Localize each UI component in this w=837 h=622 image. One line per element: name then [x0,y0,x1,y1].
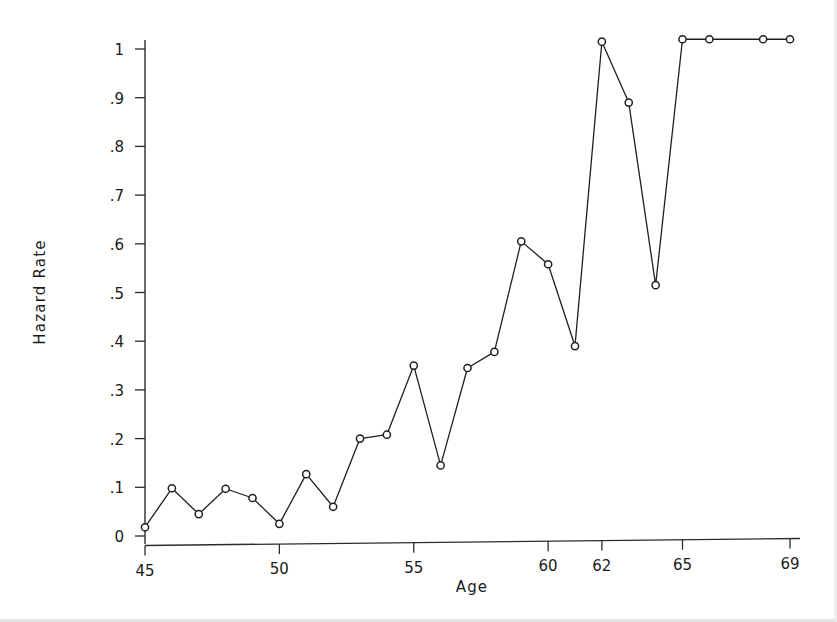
data-point-marker [249,494,256,501]
data-point-marker [652,282,659,289]
x-tick-label: 69 [780,555,799,573]
data-point-marker [195,510,202,517]
data-point-marker [168,485,175,492]
data-point-marker [598,38,605,45]
data-point-marker [276,520,283,527]
data-point-marker [518,238,525,245]
x-axis-tick-labels: 45505560626569 [135,555,799,580]
y-tick-label: 1 [114,41,124,59]
y-tick-label: .6 [110,236,124,254]
chart-screenshot: 0.1.2.3.4.5.6.7.8.91 45505560626569 Age … [0,0,837,622]
y-axis-tick-labels: 0.1.2.3.4.5.6.7.8.91 [110,41,124,546]
data-point-markers [141,36,793,531]
data-point-marker [437,462,444,469]
y-axis-title: Hazard Rate [31,239,49,344]
x-tick-label: 50 [270,560,289,578]
y-tick-label: .8 [110,138,124,156]
y-tick-label: .3 [110,382,124,400]
y-tick-label: .7 [110,187,124,205]
y-tick-label: .4 [110,333,124,351]
x-tick-label: 65 [673,556,692,574]
y-tick-label: .1 [110,479,124,497]
y-tick-label: .5 [110,285,124,303]
data-point-marker [383,431,390,438]
x-tick-label: 55 [404,559,423,577]
y-tick-label: .9 [110,90,124,108]
data-point-marker [464,364,471,371]
y-tick-label: .2 [110,431,124,449]
x-tick-label: 60 [539,557,558,575]
data-point-marker [625,99,632,106]
data-point-marker [141,524,148,531]
data-point-marker [571,342,578,349]
data-point-marker [706,36,713,43]
data-series-line [145,39,790,527]
data-point-marker [760,36,767,43]
y-tick-label: 0 [114,528,124,546]
data-point-marker [491,348,498,355]
x-axis-line [145,539,800,546]
data-point-marker [545,261,552,268]
hazard-rate-line-chart: 0.1.2.3.4.5.6.7.8.91 45505560626569 Age … [0,0,837,622]
data-point-marker [356,435,363,442]
data-point-marker [222,485,229,492]
x-tick-label: 45 [135,562,154,580]
x-tick-label: 62 [592,557,611,575]
data-point-marker [330,503,337,510]
data-point-marker [679,36,686,43]
x-axis-title: Age [456,578,489,596]
data-point-marker [410,362,417,369]
x-axis-ticks [145,539,790,556]
y-axis-ticks [135,49,145,536]
data-point-marker [786,36,793,43]
data-point-marker [303,471,310,478]
